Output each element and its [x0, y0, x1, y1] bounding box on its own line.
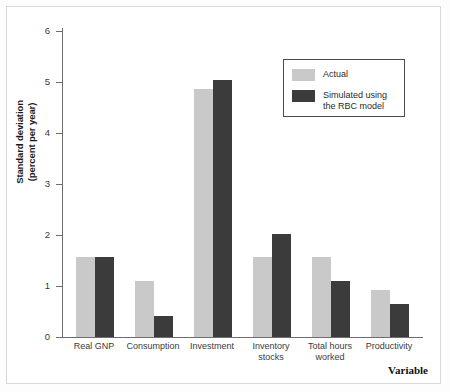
bar-actual-consumption: [135, 281, 154, 337]
legend-entry-actual: Actual: [292, 69, 348, 81]
plot-area: 0 1 2 3 4 5 6 Standard deviation (percen…: [0, 0, 450, 392]
bar-simulated-consumption: [154, 316, 173, 337]
bar-actual-productivity: [371, 290, 390, 337]
bar-simulated-productivity: [390, 304, 409, 337]
y-axis-title-line2: (percent per year): [26, 72, 38, 212]
bar-simulated-total-hours-worked: [331, 281, 350, 337]
x-axis-line: [62, 337, 423, 338]
bar-simulated-inventory-stocks: [272, 234, 291, 337]
legend-label-simulated: Simulated using the RBC model: [323, 90, 387, 112]
legend-swatch-simulated: [292, 90, 315, 102]
legend-swatch-actual: [292, 69, 315, 81]
legend-label-line: Simulated using: [323, 90, 387, 101]
bar-simulated-investment: [213, 80, 232, 338]
y-tick-4: [56, 133, 63, 134]
figure-container: 0 1 2 3 4 5 6 Standard deviation (percen…: [0, 0, 450, 392]
y-axis-line: [62, 28, 63, 338]
bar-actual-real-gnp: [76, 257, 95, 337]
x-category-line: worked: [293, 352, 367, 363]
y-tick-label-1: 1: [26, 281, 50, 290]
y-tick-2: [56, 235, 63, 236]
legend-label-line: Actual: [323, 69, 348, 80]
legend-label-actual: Actual: [323, 69, 348, 80]
y-tick-label-6: 6: [26, 26, 50, 35]
y-tick-3: [56, 184, 63, 185]
x-axis-title: Variable: [388, 364, 428, 376]
x-category-label-productivity: Productivity: [352, 341, 426, 352]
bar-actual-investment: [194, 89, 213, 337]
y-axis-title-line1: Standard deviation: [14, 72, 26, 212]
y-tick-1: [56, 286, 63, 287]
y-axis-title: Standard deviation (percent per year): [14, 72, 38, 212]
y-tick-0: [56, 337, 63, 338]
x-category-line: Productivity: [352, 341, 426, 352]
y-tick-label-2: 2: [26, 230, 50, 239]
legend: Actual Simulated using the RBC model: [283, 59, 405, 117]
bar-simulated-real-gnp: [95, 257, 114, 337]
y-tick-label-0: 0: [26, 332, 50, 341]
legend-entry-simulated: Simulated using the RBC model: [292, 90, 387, 112]
legend-label-line: the RBC model: [323, 101, 387, 112]
y-tick-5: [56, 82, 63, 83]
y-tick-6: [56, 31, 63, 32]
bar-actual-total-hours-worked: [312, 257, 331, 337]
bar-actual-inventory-stocks: [253, 257, 272, 337]
